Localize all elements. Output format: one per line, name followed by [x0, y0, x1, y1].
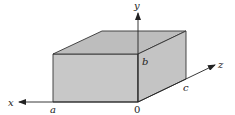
y-axis-label: y: [133, 0, 140, 11]
z-axis-label: z: [217, 59, 224, 70]
dimension-a-label: a: [50, 104, 56, 115]
dimension-c-label: c: [183, 82, 189, 93]
box-front-face: [53, 54, 138, 102]
dimension-b-label: b: [142, 56, 148, 67]
box-diagram: x y z a b c 0: [0, 0, 235, 115]
origin-label: 0: [134, 104, 140, 115]
x-axis-label: x: [8, 97, 14, 108]
